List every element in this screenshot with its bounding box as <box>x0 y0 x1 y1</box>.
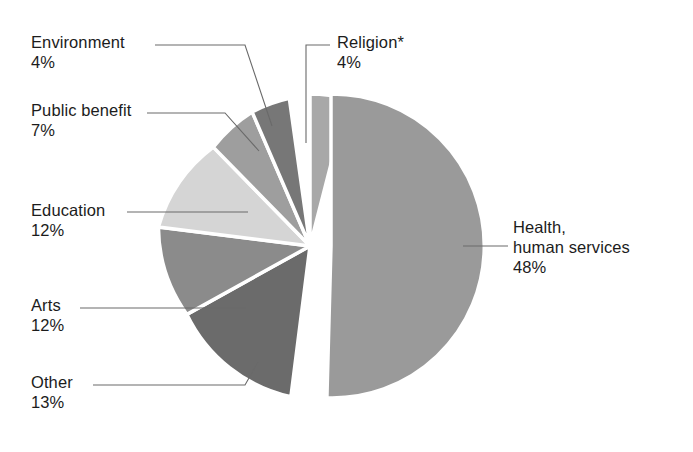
callout-other-percent: 13% <box>31 392 73 412</box>
callout-health-category-line1: Health, <box>513 217 630 237</box>
pie-slice-health[interactable] <box>327 94 484 398</box>
callout-public-benefit: Public benefit 7% <box>31 100 131 140</box>
pie-slices <box>158 94 484 398</box>
callout-public-benefit-category: Public benefit <box>31 100 131 120</box>
callout-education-percent: 12% <box>31 220 105 240</box>
pie-chart-figure: Environment 4% Public benefit 7% Educati… <box>0 0 693 452</box>
callout-health: Health, human services 48% <box>513 217 630 277</box>
callout-health-percent: 48% <box>513 257 630 277</box>
callout-education-category: Education <box>31 200 105 220</box>
callout-arts-percent: 12% <box>31 315 64 335</box>
callout-health-category-line2: human services <box>513 237 630 257</box>
callout-environment-category: Environment <box>31 32 125 52</box>
callout-environment: Environment 4% <box>31 32 125 72</box>
callout-other-category: Other <box>31 372 73 392</box>
callout-public-benefit-percent: 7% <box>31 120 131 140</box>
callout-arts: Arts 12% <box>31 295 64 335</box>
callout-education: Education 12% <box>31 200 105 240</box>
callout-environment-percent: 4% <box>31 52 125 72</box>
callout-religion-category: Religion* <box>337 32 404 52</box>
callout-religion-percent: 4% <box>337 52 404 72</box>
callout-other: Other 13% <box>31 372 73 412</box>
callout-religion: Religion* 4% <box>337 32 404 72</box>
callout-arts-category: Arts <box>31 295 64 315</box>
